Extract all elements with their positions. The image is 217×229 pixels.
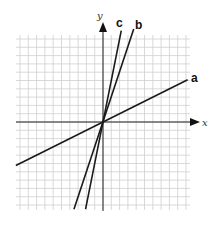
line-a	[16, 80, 188, 166]
axes	[16, 22, 200, 211]
coordinate-plane: x y a b c	[0, 0, 217, 229]
lines	[16, 29, 188, 209]
y-axis-arrow-icon	[99, 22, 107, 32]
line-c-label: c	[116, 16, 123, 30]
x-axis-label: x	[202, 117, 208, 128]
line-b-label: b	[135, 18, 142, 32]
y-axis-label: y	[96, 10, 103, 21]
line-a-label: a	[191, 71, 198, 85]
x-axis-arrow-icon	[190, 118, 200, 126]
